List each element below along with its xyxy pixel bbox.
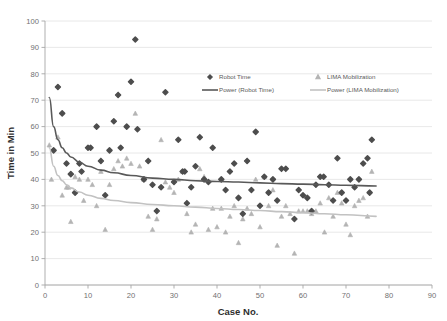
robot-time-point <box>369 137 374 142</box>
robot-time-point <box>150 182 155 187</box>
y-tick-label-90: 90 <box>31 43 39 52</box>
robot-time-point <box>94 124 99 129</box>
y-tick-label-100: 100 <box>26 17 39 26</box>
robot-time-point <box>118 145 123 150</box>
robot-time-point <box>197 135 202 140</box>
robot-time-point <box>55 85 60 90</box>
robot-time-point <box>133 37 138 42</box>
robot-time-point <box>172 180 177 185</box>
robot-time-point <box>124 124 129 129</box>
y-tick-label-70: 70 <box>31 96 39 105</box>
chart-background <box>0 0 447 321</box>
robot-time-point <box>210 145 215 150</box>
legend-label-lima-mobilization: LIMA Mobilization <box>327 73 376 80</box>
legend-label-power-robot-time: Power (Robot Time) <box>219 86 274 93</box>
y-tick-label-10: 10 <box>31 254 39 263</box>
x-tick-label-60: 60 <box>299 291 307 300</box>
y-tick-label-30: 30 <box>31 202 39 211</box>
robot-time-point <box>348 177 353 182</box>
x-tick-label-10: 10 <box>84 291 92 300</box>
robot-time-point <box>275 198 280 203</box>
robot-time-point <box>146 158 151 163</box>
robot-time-point <box>253 129 258 134</box>
robot-time-point <box>321 174 326 179</box>
robot-time-point <box>129 79 134 84</box>
x-tick-label-0: 0 <box>43 291 47 300</box>
robot-time-point <box>245 158 250 163</box>
y-tick-label-40: 40 <box>31 175 39 184</box>
y-tick-label-60: 60 <box>31 122 39 131</box>
robot-time-point <box>193 164 198 169</box>
x-tick-label-70: 70 <box>342 291 350 300</box>
robot-time-point <box>270 177 275 182</box>
robot-time-point <box>249 187 254 192</box>
robot-time-point <box>103 193 108 198</box>
robot-time-point <box>111 119 116 124</box>
robot-time-point <box>227 169 232 174</box>
x-tick-label-50: 50 <box>256 291 264 300</box>
robot-time-point <box>88 145 93 150</box>
y-tick-label-20: 20 <box>31 228 39 237</box>
robot-time-point <box>365 156 370 161</box>
robot-time-point <box>367 190 372 195</box>
y-tick-label-80: 80 <box>31 70 39 79</box>
y-tick-label-50: 50 <box>31 149 39 158</box>
robot-time-point <box>335 156 340 161</box>
robot-time-point <box>296 187 301 192</box>
legend-label-robot-time: Robot Time <box>219 73 251 80</box>
x-axis-title: Case No. <box>218 306 259 317</box>
x-tick-label-90: 90 <box>428 291 436 300</box>
robot-time-point <box>64 161 69 166</box>
robot-time-point <box>79 169 84 174</box>
robot-time-point <box>68 172 73 177</box>
robot-time-point <box>283 166 288 171</box>
x-tick-label-40: 40 <box>213 291 221 300</box>
chart-container: 0102030405060708090100 01020304050607080… <box>0 0 447 321</box>
legend-label-power-lima-mobilization: Power (LIMA Mobilization) <box>327 86 399 93</box>
robot-time-point <box>266 190 271 195</box>
x-tick-label-30: 30 <box>170 291 178 300</box>
x-tick-label-80: 80 <box>385 291 393 300</box>
robot-time-point <box>344 198 349 203</box>
robot-time-point <box>51 148 56 153</box>
scatter-chart: 0102030405060708090100 01020304050607080… <box>0 0 447 321</box>
robot-time-point <box>107 148 112 153</box>
robot-time-point <box>154 209 159 214</box>
x-tick-label-20: 20 <box>127 291 135 300</box>
y-tick-label-0: 0 <box>35 281 39 290</box>
robot-time-point <box>116 92 121 97</box>
robot-time-point <box>240 211 245 216</box>
robot-time-point <box>60 111 65 116</box>
robot-time-point <box>292 217 297 222</box>
robot-time-point <box>223 187 228 192</box>
robot-time-point <box>236 195 241 200</box>
robot-time-point <box>258 203 263 208</box>
robot-time-point <box>262 174 267 179</box>
y-axis-title: Time in Min <box>5 127 16 179</box>
robot-time-point <box>356 177 361 182</box>
robot-time-point <box>176 137 181 142</box>
robot-time-point <box>189 185 194 190</box>
robot-time-point <box>339 190 344 195</box>
robot-time-point <box>232 161 237 166</box>
robot-time-point <box>184 201 189 206</box>
robot-time-point <box>305 195 310 200</box>
robot-time-point <box>135 127 140 132</box>
robot-time-point <box>159 185 164 190</box>
robot-time-point <box>163 90 168 95</box>
robot-time-point <box>98 158 103 163</box>
robot-time-point <box>182 169 187 174</box>
robot-time-point <box>331 198 336 203</box>
robot-time-point <box>361 161 366 166</box>
